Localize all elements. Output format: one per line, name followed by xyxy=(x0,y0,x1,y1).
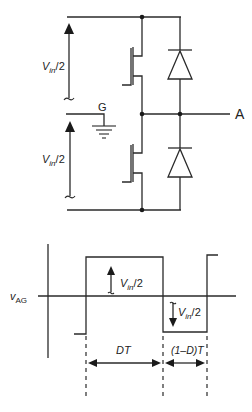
lower-mosfet xyxy=(122,114,142,210)
lower-diode xyxy=(168,148,192,177)
positive-level-arrow xyxy=(107,266,115,294)
upper-gate xyxy=(122,48,131,85)
square-wave xyxy=(74,255,218,334)
upper-mosfet xyxy=(122,17,142,114)
output-node-label: A xyxy=(235,106,245,122)
dt-dimension-arrow xyxy=(88,359,161,367)
node-dot xyxy=(140,208,145,213)
upper-diode xyxy=(168,50,192,79)
off-interval-label: (1–D)T xyxy=(171,344,205,356)
lower-gate xyxy=(122,145,131,182)
half-bridge-diagram: A G Vin/2 Vin/2 vAG xyxy=(0,0,252,412)
upper-source-label: Vin/2 xyxy=(42,60,65,75)
off-interval-dimension-arrow xyxy=(165,359,205,367)
ground-symbol xyxy=(66,114,116,138)
negative-level-arrow xyxy=(169,302,177,327)
y-axis-label: vAG xyxy=(10,290,27,305)
negative-level-label: Vin/2 xyxy=(178,306,201,321)
node-dot xyxy=(178,112,183,117)
ground-label: G xyxy=(98,101,107,113)
node-dot xyxy=(140,112,145,117)
lower-source-arrow xyxy=(65,121,75,198)
lower-source-label: Vin/2 xyxy=(42,153,65,168)
waveform-plot: vAG Vin/2 Vin/2 DT xyxy=(10,244,236,396)
dt-label: DT xyxy=(116,344,132,356)
upper-source-arrow xyxy=(64,23,74,100)
node-dot xyxy=(140,15,145,20)
circuit: A G Vin/2 Vin/2 xyxy=(42,15,245,213)
positive-level-label: Vin/2 xyxy=(120,277,143,292)
